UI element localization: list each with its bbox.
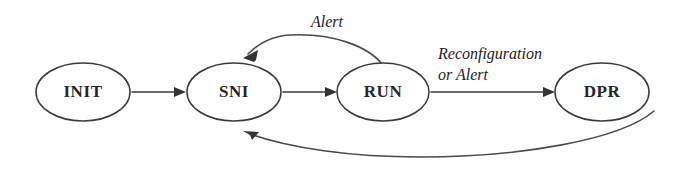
node-run-label: RUN [364, 82, 403, 101]
edge-init-to-sni-arrowhead [174, 87, 186, 97]
edge-sni-to-run-arrowhead [325, 87, 337, 97]
state-diagram-canvas: INIT SNI RUN DPR Alert Reconfiguration o… [0, 0, 678, 173]
node-init[interactable]: INIT [36, 63, 130, 121]
edge-label-alert: Alert [310, 13, 344, 30]
node-init-label: INIT [63, 82, 102, 101]
edge-sni-to-run [283, 87, 337, 97]
node-run[interactable]: RUN [337, 63, 429, 121]
edge-run-to-sni-alert [243, 35, 385, 68]
edge-label-reconfiguration-line2: or Alert [438, 66, 488, 83]
node-sni[interactable]: SNI [187, 63, 281, 121]
node-sni-label: SNI [219, 82, 249, 101]
node-dpr[interactable]: DPR [555, 63, 649, 121]
edge-run-to-dpr-arrowhead [543, 87, 555, 97]
edge-run-to-dpr [431, 87, 555, 97]
state-diagram: INIT SNI RUN DPR Alert Reconfiguration o… [0, 0, 678, 173]
edge-label-reconfiguration-line1: Reconfiguration [437, 45, 542, 63]
edge-init-to-sni [132, 87, 186, 97]
node-dpr-label: DPR [584, 82, 621, 101]
edge-run-to-sni-curve [248, 35, 385, 68]
